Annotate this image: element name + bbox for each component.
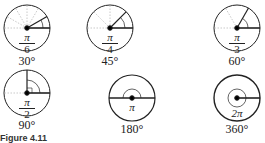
degree-label-90: 90°: [7, 118, 47, 133]
radian-label-pi-3: π3: [229, 32, 245, 55]
degree-label-60: 60°: [217, 54, 257, 69]
circle-180: [109, 75, 155, 121]
degree-label-45: 45°: [90, 54, 130, 69]
degree-label-180: 180°: [112, 122, 152, 137]
radian-label-pi-6: π6: [19, 32, 35, 55]
degree-label-30: 30°: [7, 54, 47, 69]
degree-label-360: 360°: [217, 122, 257, 137]
figure-caption: Figure 4.11: [0, 133, 47, 143]
radian-label-pi-4: π4: [102, 32, 118, 55]
radian-label-pi-2: π2: [19, 97, 35, 120]
radian-label-2pi: 2π: [227, 108, 247, 119]
radian-label-pi: π: [124, 102, 140, 113]
